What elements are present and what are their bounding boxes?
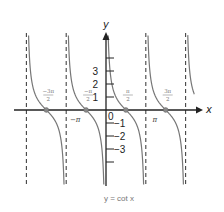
- zero-label-denominator: 2: [86, 96, 90, 102]
- zero-label-numerator: −π: [84, 88, 93, 94]
- zero-point: [163, 108, 168, 113]
- zero-label-numerator: π: [126, 88, 130, 94]
- cot-chart: 321−1−2−3−ππ0−3π2−π2π23π2 y x y = cot x: [0, 0, 224, 212]
- zero-point: [84, 108, 89, 113]
- y-tick-label: −3: [114, 144, 126, 155]
- y-tick-label: 3: [92, 66, 98, 77]
- zero-label-numerator: −3π: [42, 88, 54, 94]
- y-tick-label: −1: [114, 118, 126, 129]
- zero-label-denominator: 2: [47, 96, 51, 102]
- x-axis-label: x: [205, 104, 212, 115]
- y-tick-label: −2: [114, 131, 126, 142]
- y-axis-label: y: [102, 19, 110, 30]
- zero-label-numerator: 3π: [164, 88, 171, 94]
- x-tick-label: −π: [70, 116, 81, 124]
- y-tick-label: 2: [92, 79, 98, 90]
- x-tick-label: 0: [108, 111, 114, 122]
- zero-label-denominator: 2: [166, 96, 170, 102]
- y-tick-label: 1: [92, 92, 98, 103]
- cot-branch-partial: [188, 35, 195, 94]
- x-axis-arrow: [196, 107, 203, 114]
- zero-point: [44, 108, 49, 113]
- chart-title: y = cot x: [104, 194, 134, 203]
- zero-point: [124, 108, 129, 113]
- x-tick-label: π: [151, 116, 157, 124]
- zero-label-denominator: 2: [126, 96, 130, 102]
